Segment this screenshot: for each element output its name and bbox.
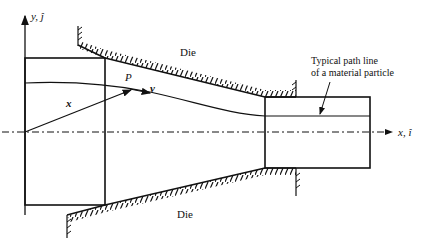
annotation-leader xyxy=(320,82,330,114)
annotation-line-1: Typical path line xyxy=(311,55,378,67)
extrusion-diagram xyxy=(0,0,440,245)
point-p-label: P xyxy=(125,71,132,83)
bottom-die-label: Die xyxy=(177,208,193,220)
position-vector xyxy=(25,90,131,132)
bottom-die xyxy=(67,168,300,238)
position-vector-label: x xyxy=(66,97,72,109)
velocity-vector-label: v xyxy=(150,82,155,94)
x-axis-label: x, î xyxy=(398,126,411,138)
annotation-line-2: of a material particle xyxy=(311,67,394,79)
y-axis-label: y, ĵ xyxy=(31,10,44,22)
top-die-label: Die xyxy=(180,46,196,58)
